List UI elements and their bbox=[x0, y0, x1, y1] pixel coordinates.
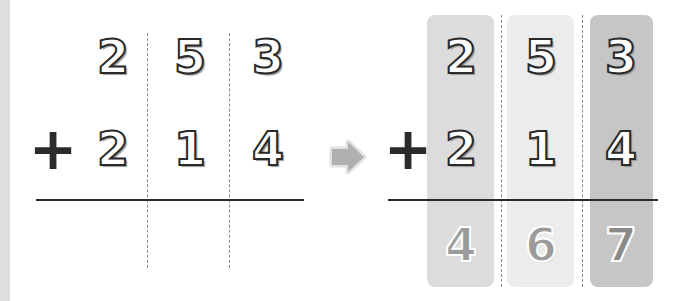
right-result-tens: 6 bbox=[511, 220, 571, 270]
left-divider-2 bbox=[229, 33, 230, 268]
left-plus-sign: + bbox=[28, 124, 78, 174]
right-divider-1 bbox=[501, 15, 502, 287]
left-top-ones: 3 bbox=[238, 32, 298, 82]
left-divider-1 bbox=[147, 33, 148, 268]
right-top-hundreds: 2 bbox=[431, 32, 491, 82]
right-plus-sign: + bbox=[383, 124, 433, 174]
right-top-ones: 3 bbox=[591, 32, 651, 82]
side-strip bbox=[0, 0, 10, 301]
left-sum-line bbox=[36, 199, 304, 201]
right-bottom-tens: 1 bbox=[511, 124, 571, 174]
right-sum-line bbox=[388, 199, 658, 201]
left-top-tens: 5 bbox=[160, 32, 220, 82]
right-divider-2 bbox=[582, 15, 583, 287]
right-result-ones: 7 bbox=[591, 220, 651, 270]
right-bottom-hundreds: 2 bbox=[431, 124, 491, 174]
left-bottom-hundreds: 2 bbox=[83, 124, 143, 174]
left-bottom-ones: 4 bbox=[238, 124, 298, 174]
right-bottom-ones: 4 bbox=[591, 124, 651, 174]
left-top-hundreds: 2 bbox=[83, 32, 143, 82]
right-result-hundreds: 4 bbox=[431, 220, 491, 270]
right-top-tens: 5 bbox=[511, 32, 571, 82]
left-bottom-tens: 1 bbox=[160, 124, 220, 174]
right-arrow-icon bbox=[328, 137, 368, 177]
